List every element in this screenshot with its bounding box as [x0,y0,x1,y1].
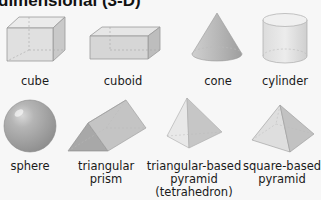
cylinder-icon [260,12,310,66]
cube-icon [5,14,67,62]
square-pyramid-label-line2: pyramid [243,173,321,186]
cube-label: cube [20,75,50,88]
cuboid-label: cuboid [100,75,146,88]
section-title: dimensional (3-D) [0,0,141,11]
sphere-icon [2,98,58,154]
cuboid-icon [88,26,162,60]
cone-label: cone [202,75,234,88]
triangular-prism-label-line2: prism [78,173,134,186]
triangular-prism-icon [64,98,148,154]
square-pyramid-label: square-based pyramid [243,160,321,186]
sphere-label: sphere [10,160,50,173]
tetrahedron-icon [165,96,225,152]
tetrahedron-label: triangular-based pyramid (tetrahedron) [146,160,242,199]
cylinder-label: cylinder [262,75,308,88]
square-pyramid-icon [250,104,316,154]
triangular-prism-label: triangular prism [78,160,134,186]
cone-icon [190,12,244,64]
tetrahedron-label-line3: (tetrahedron) [146,186,242,199]
